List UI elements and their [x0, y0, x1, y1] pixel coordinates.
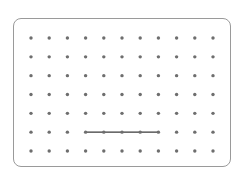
grid-dot: [66, 74, 69, 77]
grid-dot: [66, 55, 69, 58]
grid-dot: [175, 112, 178, 115]
grid-dot: [193, 36, 196, 39]
grid-dot: [139, 149, 142, 152]
grid-dot: [84, 93, 87, 96]
grid-dot: [120, 93, 123, 96]
grid-dot: [157, 36, 160, 39]
grid-dot: [193, 74, 196, 77]
grid-dot: [139, 112, 142, 115]
grid-dot: [139, 93, 142, 96]
grid-dot: [139, 55, 142, 58]
grid-dot: [193, 93, 196, 96]
grid-dot: [84, 130, 87, 133]
grid-dot: [211, 112, 214, 115]
grid-dot: [157, 74, 160, 77]
grid-dot: [157, 112, 160, 115]
grid-dot: [102, 112, 105, 115]
grid-dot: [211, 74, 214, 77]
grid-dot: [29, 55, 32, 58]
grid-dot: [102, 36, 105, 39]
grid-dot: [66, 112, 69, 115]
grid-dot: [157, 130, 160, 133]
grid-dot: [48, 74, 51, 77]
grid-dot: [120, 130, 123, 133]
grid-dot: [29, 74, 32, 77]
grid-dot: [84, 55, 87, 58]
grid-dot: [66, 93, 69, 96]
grid-dot: [84, 112, 87, 115]
grid-dot: [120, 149, 123, 152]
grid-dot: [157, 149, 160, 152]
grid-dot: [29, 36, 32, 39]
grid-dot: [211, 36, 214, 39]
grid-dot: [139, 36, 142, 39]
grid-dot: [84, 149, 87, 152]
grid-dot: [139, 74, 142, 77]
grid-dot: [29, 130, 32, 133]
grid-dot: [48, 36, 51, 39]
grid-dot: [120, 36, 123, 39]
grid-dot: [175, 93, 178, 96]
grid-dot: [120, 112, 123, 115]
grid-dot: [48, 55, 51, 58]
grid-dot: [66, 130, 69, 133]
grid-dot: [29, 149, 32, 152]
grid-dot: [175, 149, 178, 152]
grid-dot: [66, 149, 69, 152]
grid-dot: [157, 55, 160, 58]
grid-dot: [48, 149, 51, 152]
grid-dot: [193, 149, 196, 152]
grid-dot: [48, 130, 51, 133]
grid-dot: [66, 36, 69, 39]
grid-dot: [120, 55, 123, 58]
grid-dot: [102, 130, 105, 133]
grid-dot: [211, 55, 214, 58]
grid-dot: [193, 55, 196, 58]
grid-dot: [211, 130, 214, 133]
grid-dot: [175, 36, 178, 39]
grid-dot: [29, 112, 32, 115]
grid-dot: [84, 36, 87, 39]
dot-grid: [0, 0, 237, 170]
grid-dot: [211, 93, 214, 96]
grid-dot: [175, 55, 178, 58]
grid-dot: [175, 74, 178, 77]
grid-dot: [84, 74, 87, 77]
grid-dot: [102, 149, 105, 152]
grid-dot: [139, 130, 142, 133]
grid-dot: [157, 93, 160, 96]
grid-dot: [48, 112, 51, 115]
grid-dot: [211, 149, 214, 152]
grid-dot: [193, 112, 196, 115]
grid-dot: [175, 130, 178, 133]
grid-dot: [193, 130, 196, 133]
grid-dot: [48, 93, 51, 96]
grid-dot: [102, 55, 105, 58]
grid-dot: [120, 74, 123, 77]
grid-dot: [102, 93, 105, 96]
grid-dot: [29, 93, 32, 96]
grid-dot: [102, 74, 105, 77]
